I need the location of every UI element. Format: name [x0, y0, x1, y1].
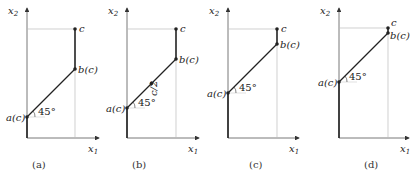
point-c — [275, 27, 279, 31]
panel-c: x2 x1 a(c) b(c) c 45° (c) — [207, 5, 300, 170]
angle-arc — [33, 111, 35, 117]
angle-arc — [234, 87, 236, 93]
point-b-label: b(c) — [78, 64, 98, 75]
x-axis-label: x1 — [289, 143, 299, 156]
point-a-label: a(c) — [106, 103, 125, 114]
angle-arc — [345, 76, 347, 82]
point-b — [174, 57, 178, 61]
point-a-label: a(c) — [207, 88, 226, 99]
point-c — [73, 27, 77, 31]
midpoint-label: c/2 — [148, 81, 159, 96]
caption: (c) — [249, 159, 263, 170]
point-a — [125, 106, 129, 110]
point-c — [174, 27, 178, 31]
y-axis-label: x2 — [320, 5, 331, 18]
panel-b: x2 x1 a(c) b(c) c c/2 45° (b) — [106, 5, 199, 170]
angle-label: 45° — [138, 97, 156, 108]
caption: (d) — [364, 159, 378, 170]
point-b — [275, 42, 279, 46]
point-a-label: a(c) — [318, 77, 337, 88]
point-a — [25, 115, 29, 119]
panel-a: x2 x1 a(c) b(c) c 45° (a) — [6, 5, 99, 170]
point-a-label: a(c) — [6, 112, 25, 123]
x-axis-label: x1 — [88, 143, 98, 156]
point-a — [226, 91, 230, 95]
point-a — [337, 80, 341, 84]
point-c-label: c — [79, 23, 85, 34]
figure: x2 x1 a(c) b(c) c 45° (a) x2 x1 a(c) b(c… — [0, 0, 416, 178]
angle-label: 45° — [349, 71, 367, 82]
point-b — [73, 67, 77, 71]
angle-arc — [133, 102, 135, 108]
x-axis-label: x1 — [188, 143, 198, 156]
point-b-label: b(c) — [179, 54, 199, 65]
caption: (a) — [32, 159, 46, 170]
point-b-label: b(c) — [390, 30, 410, 41]
y-axis-label: x2 — [209, 5, 220, 18]
y-axis-label: x2 — [108, 5, 119, 18]
angle-label: 45° — [239, 82, 257, 93]
point-c-label: c — [180, 23, 186, 34]
caption: (b) — [132, 159, 146, 170]
x-axis-label: x1 — [400, 143, 410, 156]
point-c-label: c — [281, 23, 287, 34]
panel-d: x2 x1 a(c) b(c) c 45° (d) — [318, 5, 410, 170]
point-c-label: c — [391, 17, 397, 28]
angle-label: 45° — [38, 106, 56, 117]
y-axis-label: x2 — [8, 5, 19, 18]
point-b-label: b(c) — [280, 39, 300, 50]
